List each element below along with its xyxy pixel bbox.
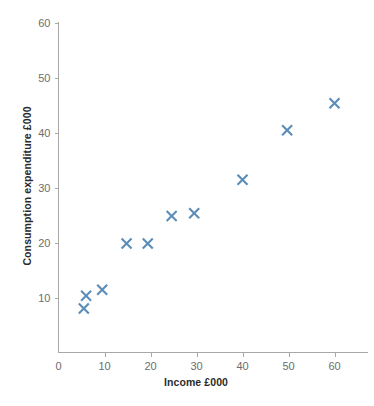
x-tick-label: 60 [328,360,340,372]
x-tick-label: 20 [144,360,156,372]
data-point [143,239,153,249]
x-axis-ticks [106,353,336,357]
y-tick-label: 20 [38,237,50,249]
data-point [97,285,107,295]
x-axis-tick-labels: 0102030405060 [55,360,340,372]
y-axis-title: Consumption expenditure £000 [21,106,33,265]
data-point [189,208,199,218]
y-tick-label: 30 [38,182,50,194]
data-point [282,125,292,135]
data-point [122,239,132,249]
x-tick-label: 30 [190,360,202,372]
x-tick-label: 0 [55,360,61,372]
x-tick-label: 50 [282,360,294,372]
y-tick-label: 10 [38,292,50,304]
scatter-chart: 0102030405060 102030405060 Income £000 C… [0,0,374,406]
y-tick-label: 40 [38,127,50,139]
data-point-markers [79,98,340,313]
data-point [81,291,91,301]
axis-spines [59,22,369,353]
y-axis-tick-labels: 102030405060 [38,17,50,304]
y-axis-ticks [55,24,59,299]
data-point [167,211,177,221]
y-tick-label: 50 [38,72,50,84]
x-axis-title: Income £000 [164,376,228,388]
x-tick-label: 40 [236,360,248,372]
data-point [79,304,89,314]
data-point [238,175,248,185]
data-point [330,98,340,108]
y-tick-label: 60 [38,17,50,29]
plot-area: 0102030405060 102030405060 Income £000 C… [0,0,374,406]
x-tick-label: 10 [98,360,110,372]
